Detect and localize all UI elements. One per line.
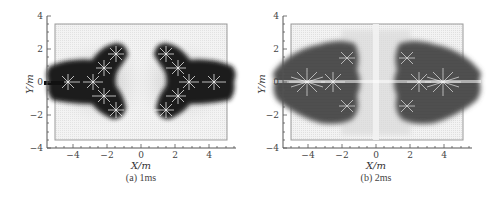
svg-text:2: 2 (407, 150, 413, 160)
svg-text:4: 4 (273, 11, 279, 21)
plot-b: 4 2 0 −2 −4 −4 −2 0 2 4 X/m Y/m (251, 0, 502, 200)
svg-text:2: 2 (172, 150, 178, 160)
svg-text:4: 4 (441, 150, 447, 160)
caption-a: (a) 1ms (81, 172, 201, 183)
svg-text:4: 4 (206, 150, 212, 160)
panel-a: 4 2 0 −2 −4 −4 −2 0 2 4 X/m Y/m (a) 1ms (0, 0, 251, 200)
svg-text:0: 0 (37, 77, 43, 87)
svg-text:2: 2 (273, 44, 279, 54)
svg-text:−4: −4 (30, 143, 44, 153)
svg-text:0: 0 (273, 77, 279, 87)
svg-text:−4: −4 (301, 150, 315, 160)
caption-b: (b) 2ms (316, 172, 436, 183)
y-axis-label-a: Y/m (24, 74, 35, 93)
y-axis-label-b: Y/m (256, 74, 267, 93)
svg-text:−4: −4 (266, 143, 280, 153)
svg-text:−2: −2 (30, 110, 43, 120)
svg-text:4: 4 (37, 11, 43, 21)
panel-b: 4 2 0 −2 −4 −4 −2 0 2 4 X/m Y/m (b) 2ms (251, 0, 502, 200)
x-axis-label-a: X/m (130, 160, 151, 171)
x-axis-label-b: X/m (365, 160, 386, 171)
svg-text:−4: −4 (66, 150, 80, 160)
svg-text:0: 0 (138, 150, 144, 160)
svg-text:2: 2 (37, 44, 43, 54)
x-tick-labels-b: −4 −2 0 2 4 (301, 150, 447, 160)
x-tick-labels-a: −4 −2 0 2 4 (66, 150, 212, 160)
svg-text:−2: −2 (100, 150, 113, 160)
svg-text:−2: −2 (266, 110, 279, 120)
plot-a: 4 2 0 −2 −4 −4 −2 0 2 4 X/m Y/m (0, 0, 251, 200)
y-tick-labels-b: 4 2 0 −2 −4 (266, 11, 280, 153)
svg-text:0: 0 (373, 150, 379, 160)
svg-text:−2: −2 (335, 150, 348, 160)
